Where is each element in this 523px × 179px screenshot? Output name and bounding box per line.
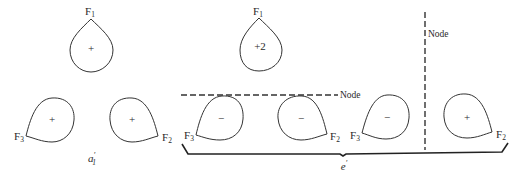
e1-f3-label: F3 xyxy=(184,129,194,143)
a1-left-sign: + xyxy=(49,113,55,125)
a1-f3-label: F3 xyxy=(14,130,24,144)
e1-f2-label: F2 xyxy=(330,130,340,144)
e1-f1-label: F1 xyxy=(253,5,263,19)
a1-top-sign: + xyxy=(88,42,94,54)
a1-f1-label: F1 xyxy=(85,5,95,19)
symmetry-orbital-diagram: + F1 + F3 + F2 a′1 +2 F1 Node − F3 − F2 … xyxy=(0,0,523,179)
e1-left-sign: − xyxy=(218,112,224,124)
e1-top-sign: +2 xyxy=(254,40,266,52)
horizontal-node-label: Node xyxy=(340,90,361,100)
e2-f3-label: F3 xyxy=(350,129,360,143)
e2-left-sign: − xyxy=(384,111,390,123)
a1-right-sign: + xyxy=(129,113,135,125)
a1-prime-label: a′1 xyxy=(88,151,96,167)
vertical-node-label: Node xyxy=(428,29,449,39)
e-prime-combination-1: +2 F1 Node − F3 − F2 xyxy=(181,5,361,144)
e-prime-brace: e′ xyxy=(182,143,508,172)
e-prime-combination-2: Node − F3 + F2 xyxy=(350,12,506,150)
e2-right-sign: + xyxy=(464,111,470,123)
e-prime-label: e′ xyxy=(341,159,348,172)
a1-prime-group: + F1 + F3 + F2 a′1 xyxy=(14,5,172,167)
e2-f2-label: F2 xyxy=(496,128,506,142)
brace-line xyxy=(182,143,508,156)
a1-f2-label: F2 xyxy=(162,131,172,145)
e1-right-sign: − xyxy=(298,112,304,124)
